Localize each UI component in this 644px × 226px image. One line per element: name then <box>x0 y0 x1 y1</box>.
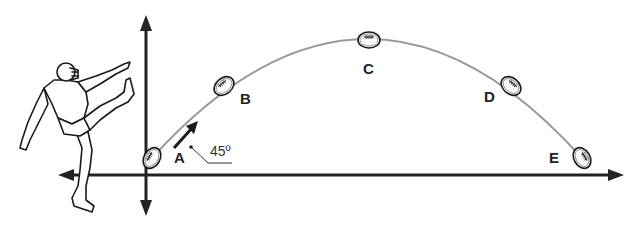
football-C <box>358 32 380 48</box>
point-label-D: D <box>484 89 495 104</box>
launch-velocity-arrow <box>174 121 198 148</box>
football-B <box>210 73 237 99</box>
arrow-right-icon <box>608 169 624 181</box>
point-label-C: C <box>363 61 374 76</box>
arrow-left-icon <box>58 169 74 181</box>
trajectory-curve <box>152 39 582 158</box>
vertical-axis <box>140 15 152 216</box>
projectile-diagram: A B C D E 45º <box>0 0 644 226</box>
arrow-down-icon <box>140 200 152 216</box>
point-label-E: E <box>549 150 559 165</box>
point-label-A: A <box>174 150 185 165</box>
football-D <box>497 73 524 99</box>
arrow-up-icon <box>140 15 152 31</box>
kicker-figure <box>20 62 134 212</box>
point-label-B: B <box>240 91 251 106</box>
horizontal-axis <box>58 169 624 181</box>
launch-angle-label: 45º <box>210 144 231 158</box>
